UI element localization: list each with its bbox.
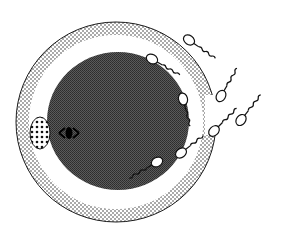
polar-body: [30, 117, 50, 149]
fertilization-diagram: [0, 0, 284, 244]
cytoplasm: [47, 52, 189, 190]
sperm-5: [234, 92, 264, 127]
sperm-4: [214, 66, 241, 103]
